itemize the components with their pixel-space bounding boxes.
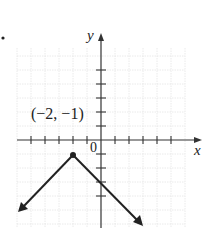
absolute-value-curve xyxy=(23,155,139,222)
bullet-icon xyxy=(1,36,4,39)
x-axis-label: x xyxy=(194,143,201,158)
origin-label: 0 xyxy=(90,141,97,155)
y-axis-arrow-icon xyxy=(98,33,104,41)
vertex-label: (−2, −1) xyxy=(31,106,84,122)
vertex-point xyxy=(70,152,76,158)
y-axis-label: y xyxy=(87,28,94,43)
